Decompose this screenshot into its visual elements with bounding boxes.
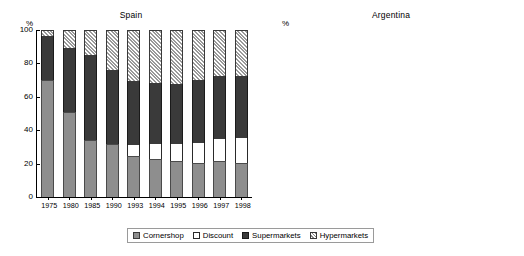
chart-title-spain: Spain	[0, 10, 262, 20]
x-tick-spain-1996: 1996	[192, 201, 205, 210]
segment-supermarkets-spain-1980	[63, 48, 76, 111]
segment-cornershop-spain-1994	[149, 159, 162, 197]
y-tick-spain-100: 100	[20, 26, 37, 34]
x-tick-spain-1980: 1980	[63, 201, 76, 210]
segment-hypermarkets-spain-1985	[84, 30, 97, 55]
legend-label-cornershop: Cornershop	[143, 231, 184, 240]
bar-spain-1997[interactable]	[213, 30, 226, 197]
bar-spain-1998[interactable]	[235, 30, 248, 197]
segment-supermarkets-spain-1990	[106, 70, 119, 143]
segment-supermarkets-spain-1997	[213, 76, 226, 139]
bar-spain-1980[interactable]	[63, 30, 76, 197]
segment-supermarkets-spain-1994	[149, 83, 162, 143]
legend-item-discount[interactable]: Discount	[193, 231, 233, 240]
segment-supermarkets-spain-1996	[192, 80, 205, 143]
legend-item-cornershop[interactable]: Cornershop	[133, 231, 184, 240]
segment-supermarkets-spain-1995	[170, 84, 183, 143]
y-tick-spain-60: 60	[24, 93, 37, 101]
bar-spain-1990[interactable]	[106, 30, 119, 197]
legend-label-discount: Discount	[203, 231, 233, 240]
segment-hypermarkets-spain-1998	[235, 30, 248, 76]
bar-spain-1996[interactable]	[192, 30, 205, 197]
legend-item-hypermarkets[interactable]: Hypermarkets	[310, 231, 369, 240]
chart-title-argentina: Argentina	[258, 10, 524, 20]
segment-discount-spain-1993	[127, 145, 140, 156]
segment-cornershop-spain-1975	[41, 80, 54, 197]
segment-discount-spain-1995	[170, 144, 183, 162]
segment-cornershop-spain-1980	[63, 112, 76, 197]
legend-swatch-discount-icon	[193, 232, 200, 239]
y-tick-spain-0: 0	[29, 193, 37, 201]
legend-swatch-supermarkets-icon	[242, 232, 249, 239]
segment-hypermarkets-spain-1994	[149, 30, 162, 83]
x-tick-spain-1975: 1975	[41, 201, 54, 210]
x-tick-spain-1985: 1985	[84, 201, 97, 210]
y-tick-spain-20: 20	[24, 160, 37, 168]
legend-item-supermarkets[interactable]: Supermarkets	[242, 231, 301, 240]
segment-discount-spain-1994	[149, 144, 162, 160]
bar-group-spain	[37, 30, 252, 197]
x-tick-spain-1994: 1994	[149, 201, 162, 210]
segment-discount-spain-1998	[235, 138, 248, 163]
legend-swatch-hypermarkets-icon	[310, 232, 317, 239]
x-tick-spain-1995: 1995	[170, 201, 183, 210]
segment-hypermarkets-spain-1996	[192, 30, 205, 80]
segment-hypermarkets-spain-1980	[63, 30, 76, 48]
chart-panel-argentina: Argentina % 0102030405060708090100 19751…	[258, 0, 524, 222]
bar-spain-1985[interactable]	[84, 30, 97, 197]
bar-spain-1995[interactable]	[170, 30, 183, 197]
y-axis-unit-argentina: %	[282, 19, 289, 28]
x-tick-spain-1993: 1993	[127, 201, 140, 210]
segment-hypermarkets-spain-1997	[213, 30, 226, 76]
segment-hypermarkets-spain-1993	[127, 30, 140, 81]
figure-root: Spain % 020406080100 1975198019851990199…	[0, 0, 524, 256]
segment-supermarkets-spain-1998	[235, 76, 248, 138]
plot-area-spain: 020406080100 197519801985199019931994199…	[36, 30, 252, 198]
segment-supermarkets-spain-1985	[84, 55, 97, 140]
x-tick-spain-1997: 1997	[213, 201, 226, 210]
x-tick-spain-1998: 1998	[235, 201, 248, 210]
legend-label-supermarkets: Supermarkets	[252, 231, 301, 240]
segment-cornershop-spain-1997	[213, 161, 226, 197]
segment-cornershop-spain-1996	[192, 163, 205, 197]
segment-discount-spain-1996	[192, 143, 205, 163]
segment-hypermarkets-spain-1995	[170, 30, 183, 84]
bar-spain-1975[interactable]	[41, 30, 54, 197]
segment-supermarkets-spain-1993	[127, 81, 140, 145]
segment-cornershop-spain-1985	[84, 140, 97, 197]
segment-cornershop-spain-1995	[170, 161, 183, 197]
segment-discount-spain-1997	[213, 139, 226, 162]
segment-cornershop-spain-1998	[235, 163, 248, 197]
segment-cornershop-spain-1993	[127, 156, 140, 197]
chart-legend: CornershopDiscountSupermarketsHypermarke…	[127, 228, 374, 243]
segment-hypermarkets-spain-1990	[106, 30, 119, 70]
y-tick-spain-80: 80	[24, 59, 37, 67]
bar-spain-1994[interactable]	[149, 30, 162, 197]
y-tick-spain-40: 40	[24, 126, 37, 134]
segment-supermarkets-spain-1975	[41, 36, 54, 80]
chart-panel-spain: Spain % 020406080100 1975198019851990199…	[0, 0, 262, 222]
segment-cornershop-spain-1990	[106, 144, 119, 197]
bar-spain-1993[interactable]	[127, 30, 140, 197]
legend-swatch-cornershop-icon	[133, 232, 140, 239]
legend-label-hypermarkets: Hypermarkets	[320, 231, 369, 240]
x-tick-spain-1990: 1990	[106, 201, 119, 210]
x-axis-spain: 1975198019851990199319941995199619971998	[37, 197, 252, 210]
